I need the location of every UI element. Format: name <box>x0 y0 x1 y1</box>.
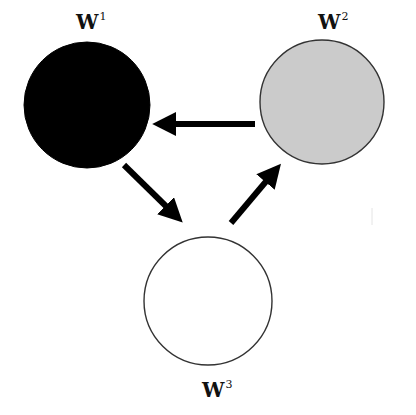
node-w3-label-sup: 3 <box>225 378 232 391</box>
node-w2-label: W2 <box>318 12 348 32</box>
node-w3-label: W3 <box>202 380 232 400</box>
node-w1-label-sup: 1 <box>99 10 106 23</box>
cycle-diagram <box>0 0 416 415</box>
node-w2-label-sup: 2 <box>341 10 348 23</box>
node-w2-label-base: W <box>318 10 340 34</box>
node-w1-label: W1 <box>76 12 106 32</box>
node-w2-circle <box>260 40 384 164</box>
node-w1-circle <box>24 42 150 168</box>
node-w3-circle <box>144 237 272 365</box>
node-w3-label-base: W <box>202 378 224 402</box>
node-w1-label-base: W <box>76 10 98 34</box>
arrow-w1-to-w3 <box>124 165 175 215</box>
arrow-w3-to-w2 <box>231 172 274 223</box>
